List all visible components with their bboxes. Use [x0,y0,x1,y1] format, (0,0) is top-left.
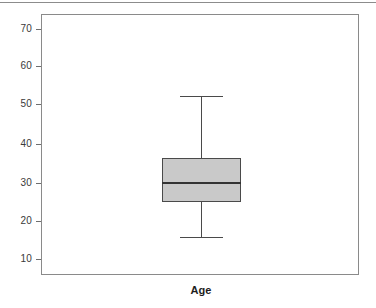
y-tick-label-30: 30 [8,178,32,188]
y-tick-mark-70 [36,29,41,30]
y-tick-mark-40 [36,144,41,145]
y-tick-label-10: 10 [8,254,32,264]
y-tick-mark-30 [36,183,41,184]
upper-whisker-cap [180,96,223,97]
lower-whisker-cap [180,237,223,238]
y-tick-label-70: 70 [8,24,32,34]
upper-whisker-line [201,96,202,159]
y-tick-mark-60 [36,66,41,67]
y-tick-mark-50 [36,104,41,105]
y-tick-mark-10 [36,259,41,260]
lower-whisker-line [201,201,202,238]
y-axis: 70 60 50 40 30 20 10 [0,0,376,308]
median-line [162,182,241,184]
interquartile-box [162,158,241,202]
y-tick-label-20: 20 [8,216,32,226]
y-tick-label-60: 60 [8,61,32,71]
y-tick-label-50: 50 [8,99,32,109]
boxplot-figure: 70 60 50 40 30 20 10 Age [0,0,376,308]
y-tick-mark-20 [36,221,41,222]
y-tick-label-40: 40 [8,139,32,149]
x-axis-label: Age [171,284,231,296]
